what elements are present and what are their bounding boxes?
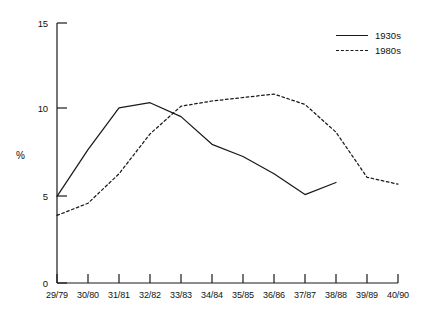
legend-line-dashed-icon xyxy=(336,50,368,51)
legend-item-1980s: 1980s xyxy=(336,43,401,58)
x-tick-label-39-89: 39/89 xyxy=(356,290,378,300)
series-line-1930s xyxy=(57,103,336,197)
y-tick-label-5: 5 xyxy=(22,191,48,202)
x-tick-label-36-86: 36/86 xyxy=(263,290,285,300)
y-tick-label-10: 10 xyxy=(22,103,48,114)
chart-legend: 1930s 1980s xyxy=(336,28,401,58)
y-axis-title: % xyxy=(16,150,25,161)
y-tick-label-0: 0 xyxy=(22,278,48,289)
legend-label-1930s: 1930s xyxy=(375,30,401,41)
x-tick-label-40-90: 40/90 xyxy=(387,290,409,300)
legend-item-1930s: 1930s xyxy=(336,28,401,43)
series-line-1980s xyxy=(57,94,398,215)
x-tick-label-35-85: 35/85 xyxy=(232,290,254,300)
x-tick-label-32-82: 32/82 xyxy=(139,290,161,300)
x-tick-label-30-80: 30/80 xyxy=(77,290,99,300)
x-tick-label-33-83: 33/83 xyxy=(170,290,192,300)
legend-line-solid-icon xyxy=(336,35,368,36)
x-tick-label-37-87: 37/87 xyxy=(294,290,316,300)
y-tick-label-15: 15 xyxy=(22,18,48,29)
line-chart: 15 10 5 0 % 29/79 30/80 31/81 32/82 33/8… xyxy=(0,0,444,318)
x-tick-label-29-79: 29/79 xyxy=(46,290,68,300)
x-tick-label-38-88: 38/88 xyxy=(325,290,347,300)
y-axis-ticks xyxy=(57,23,67,283)
legend-label-1980s: 1980s xyxy=(375,45,401,56)
x-tick-label-34-84: 34/84 xyxy=(201,290,223,300)
x-tick-label-31-81: 31/81 xyxy=(108,290,130,300)
x-axis-ticks xyxy=(57,274,398,283)
